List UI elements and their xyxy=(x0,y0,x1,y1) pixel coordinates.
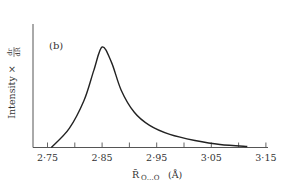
y-axis-label: Intensity × dr dR̄ xyxy=(6,46,22,118)
x-axis-label-subscript: O…O xyxy=(141,174,160,182)
y-axis-frac-num: dr xyxy=(6,47,14,55)
x-tick-labels: 2·752·852·953·053·15 xyxy=(37,152,277,163)
x-tick-label: 3·05 xyxy=(201,152,222,163)
y-axis-frac-den: dR̄ xyxy=(14,46,22,56)
x-tick-label: 2·85 xyxy=(92,152,113,163)
x-axis-label-symbol: R̄ xyxy=(132,169,140,180)
intensity-curve xyxy=(51,47,247,148)
y-axis-label-text: Intensity × xyxy=(6,65,17,119)
x-axis-label-unit: (Å) xyxy=(168,169,182,180)
x-tick-label: 3·15 xyxy=(255,152,276,163)
x-axis-label: R̄ O…O (Å) xyxy=(132,169,182,182)
x-tick-label: 2·75 xyxy=(37,152,58,163)
panel-label: (b) xyxy=(49,40,63,51)
x-tick-label: 2·95 xyxy=(146,152,167,163)
chart: 2·752·852·953·053·15 (b) Intensity × dr … xyxy=(0,0,291,183)
